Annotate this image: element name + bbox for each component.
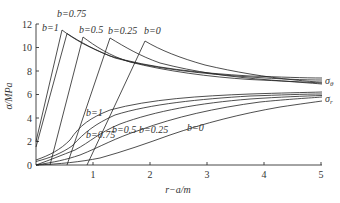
x-tick-3: 3 [205,169,210,180]
y-tick-labels: 0 2 4 6 8 10 12 [22,19,32,171]
sigma-theta-b025 [67,38,322,165]
x-axis-title: r−a/m [165,184,191,195]
y-tick-10: 10 [22,42,32,53]
y-tick-0: 0 [27,160,32,171]
label-top-b05: b=0.5 [79,24,103,35]
y-tick-6: 6 [27,89,32,100]
y-tick-8: 8 [27,66,32,77]
label-top-b0: b=0 [144,25,161,36]
label-bottom-b075: b=0.75 [86,129,115,140]
axes [36,24,322,165]
y-tick-2: 2 [27,136,32,147]
bottom-curve-labels: b=1 b=0.75 b=0.5 b=0.25 b=0 [86,107,204,140]
sigma-group-labels: σθ σr [325,75,334,106]
sigma-r-curves [36,92,322,165]
label-bottom-b0: b=0 [187,122,204,133]
x-tick-labels: 1 2 3 4 5 [91,169,324,180]
label-bottom-b05: b=0.5 [112,124,136,135]
label-bottom-b1: b=1 [86,107,103,118]
x-tick-2: 2 [148,169,153,180]
label-bottom-b025: b=0.25 [139,124,168,135]
y-tick-4: 4 [27,113,32,124]
label-sigma-r: σr [325,93,333,106]
top-curve-labels: b=1 b=0.75 b=0.5 b=0.25 b=0 [42,8,161,36]
x-tick-1: 1 [91,169,96,180]
x-tick-4: 4 [262,169,267,180]
sigma-theta-b1 [36,30,322,142]
sigma-theta-b05 [50,37,322,165]
label-top-b075: b=0.75 [57,8,86,19]
label-top-b1: b=1 [42,22,59,33]
y-axis-title: σ/MPa [3,82,14,109]
label-sigma-theta: σθ [325,75,334,88]
stress-chart: 0 2 4 6 8 10 12 1 2 3 4 5 r−a/m σ/MPa b=… [0,0,340,203]
y-tick-12: 12 [22,19,32,30]
x-tick-5: 5 [319,169,324,180]
label-top-b025: b=0.25 [108,25,137,36]
sigma-r-b075 [36,94,322,162]
